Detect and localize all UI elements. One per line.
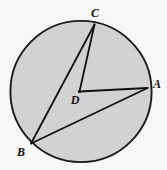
circle-diagram <box>0 0 167 170</box>
geometry-figure: C A B D <box>0 0 167 170</box>
vertex-label-d: D <box>71 94 80 106</box>
vertex-label-c: C <box>91 7 99 19</box>
vertex-label-a: A <box>153 78 161 90</box>
vertex-label-b: B <box>17 146 25 158</box>
